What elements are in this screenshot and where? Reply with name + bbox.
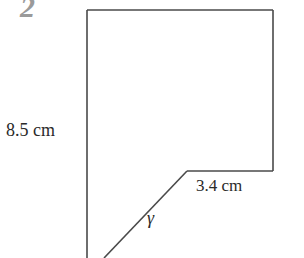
angle-gamma-label: γ [147, 208, 154, 229]
bottom-segment-length-label: 3.4 cm [196, 176, 242, 196]
left-side-length-label: 8.5 cm [6, 120, 55, 141]
diagonal-edge [104, 171, 187, 258]
figure-number: 2 [20, 0, 35, 24]
